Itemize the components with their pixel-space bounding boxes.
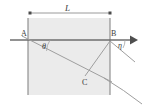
eta-ray-from-B xyxy=(110,41,135,62)
axis-arrowhead xyxy=(130,36,138,45)
eta-angle-arc xyxy=(123,40,125,48)
point-label-C: C xyxy=(82,79,87,87)
angle-label-eta: η xyxy=(118,42,122,50)
shaded-slab-region xyxy=(28,18,110,95)
refraction-geometry-diagram: L A B C θ η xyxy=(0,0,144,107)
dimension-label-L: L xyxy=(65,4,70,13)
dimension-tick-left xyxy=(29,12,32,15)
angle-label-theta: θ xyxy=(42,43,46,51)
point-label-B: B xyxy=(111,30,116,38)
point-label-A: A xyxy=(21,30,27,38)
dimension-tick-right xyxy=(109,12,112,15)
diagram-canvas xyxy=(0,0,144,107)
